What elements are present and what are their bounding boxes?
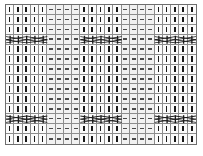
knit-stitch-cell [171,104,179,114]
purl-symbol [140,108,144,110]
knit-stitch-cell [89,15,97,25]
knit-symbol [25,96,27,102]
cable-stitch-cell [188,35,196,45]
knit-symbol [42,76,44,82]
knit-symbol [25,136,27,142]
purl-symbol [65,38,69,40]
knit-symbol [174,27,176,33]
purl-symbol [57,58,61,60]
knit-stitch-cell [39,65,47,75]
purl-symbol [140,88,144,90]
knit-symbol [9,56,11,62]
purl-stitch-cell [122,124,130,134]
knit-stitch-cell [171,55,179,65]
knit-symbol [116,46,118,52]
knit-stitch-cell [163,94,171,104]
purl-symbol [74,29,78,31]
purl-stitch-cell [138,5,146,15]
knit-stitch-cell [179,124,187,134]
knit-stitch-cell [23,5,31,15]
purl-symbol [123,48,127,50]
knit-symbol [108,136,110,142]
knit-symbol [191,17,193,23]
knit-symbol [9,46,11,52]
knit-stitch-cell [105,25,113,35]
knit-stitch-cell [80,15,88,25]
knit-stitch-cell [23,15,31,25]
knit-symbol [100,106,102,112]
purl-symbol [74,98,78,100]
purl-symbol [57,98,61,100]
purl-stitch-cell [56,55,64,65]
purl-stitch-cell [64,55,72,65]
knit-symbol [174,7,176,13]
knit-symbol [116,136,118,142]
knit-stitch-cell [89,5,97,15]
purl-stitch-cell [130,94,138,104]
purl-stitch-cell [138,35,146,45]
purl-stitch-cell [47,65,55,75]
knit-symbol [182,76,184,82]
knit-symbol [91,27,93,33]
knit-symbol [17,126,19,132]
knit-symbol [182,106,184,112]
purl-stitch-cell [122,25,130,35]
cable-stitch-cell [113,114,121,124]
purl-symbol [49,38,53,40]
knit-stitch-cell [39,84,47,94]
knit-symbol [91,106,93,112]
page-root [0,0,203,156]
knit-symbol [166,86,168,92]
purl-symbol [140,48,144,50]
knit-symbol [182,126,184,132]
knit-stitch-cell [179,15,187,25]
knit-symbol [174,86,176,92]
purl-symbol [74,38,78,40]
knit-symbol [158,126,160,132]
cable-stitch-cell [105,35,113,45]
knit-stitch-cell [179,55,187,65]
knit-stitch-cell [171,94,179,104]
knit-symbol [100,96,102,102]
knit-symbol [91,56,93,62]
purl-symbol [148,19,152,21]
knit-symbol [191,7,193,13]
knit-stitch-cell [97,15,105,25]
knit-symbol [83,27,85,33]
purl-stitch-cell [146,75,154,85]
knit-stitch-cell [113,5,121,15]
cable-stitch-cell [80,35,88,45]
knit-symbol [91,66,93,72]
purl-symbol [148,98,152,100]
knit-symbol [108,66,110,72]
knit-symbol [91,86,93,92]
purl-symbol [123,98,127,100]
knit-stitch-cell [105,84,113,94]
purl-symbol [65,108,69,110]
knit-symbol [116,96,118,102]
knit-symbol [166,46,168,52]
purl-stitch-cell [56,124,64,134]
purl-stitch-cell [122,114,130,124]
knit-symbol [182,7,184,13]
knit-symbol [191,136,193,142]
cable-stitch-cell [163,114,171,124]
purl-stitch-cell [72,55,80,65]
purl-stitch-cell [56,45,64,55]
knit-symbol [34,86,36,92]
purl-symbol [148,88,152,90]
knit-stitch-cell [14,55,22,65]
knit-symbol [174,136,176,142]
knit-symbol [34,27,36,33]
purl-stitch-cell [56,134,64,144]
knit-symbol [91,126,93,132]
knit-symbol [108,106,110,112]
knit-stitch-cell [80,134,88,144]
knit-stitch-cell [97,104,105,114]
knit-symbol [191,106,193,112]
knit-symbol [191,86,193,92]
purl-stitch-cell [47,45,55,55]
purl-symbol [123,88,127,90]
purl-stitch-cell [130,114,138,124]
purl-stitch-cell [56,114,64,124]
